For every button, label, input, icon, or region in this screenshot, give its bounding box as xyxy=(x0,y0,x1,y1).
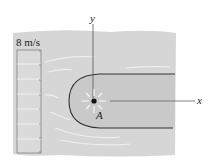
point-a-label: A xyxy=(96,110,103,121)
point-a-dot xyxy=(91,98,96,103)
x-axis-label: x xyxy=(197,95,202,106)
flow-diagram xyxy=(0,0,211,167)
velocity-label: 8 m/s xyxy=(16,37,40,48)
velocity-profile xyxy=(17,50,41,153)
y-axis-label: y xyxy=(90,13,95,24)
